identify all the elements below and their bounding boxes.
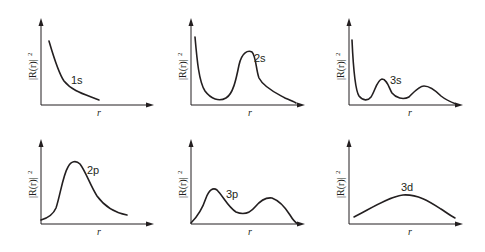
y-axis-arrow-icon — [189, 18, 194, 26]
svg-text:|R(r)|: |R(r)| — [27, 177, 39, 198]
orbital-label: 3s — [390, 74, 402, 86]
y-axis-label: |R(r)| 2 — [334, 170, 347, 198]
curve-2s — [195, 37, 296, 103]
x-axis-label: r — [97, 107, 101, 118]
x-axis-label: r — [408, 107, 412, 118]
x-axis-arrow-icon — [455, 222, 463, 227]
y-axis-arrow-icon — [189, 139, 194, 147]
y-axis-label: |R(r)| 2 — [176, 52, 189, 80]
curve-3s — [352, 40, 456, 104]
svg-text:|R(r)|: |R(r)| — [27, 59, 39, 80]
orbital-label: 3p — [226, 188, 238, 200]
svg-text:2: 2 — [334, 52, 342, 56]
y-axis-arrow-icon — [347, 139, 352, 147]
orbital-label: 2p — [87, 164, 99, 176]
curve-3p — [191, 189, 298, 224]
svg-text:2: 2 — [176, 52, 184, 56]
y-axis-arrow-icon — [39, 139, 44, 147]
panel-3p: 3p r |R(r)| 2 — [176, 139, 305, 237]
x-axis-label: r — [248, 226, 252, 237]
y-axis-label: |R(r)| 2 — [26, 170, 39, 198]
orbital-label: 2s — [254, 52, 266, 64]
orbital-label: 3d — [401, 181, 413, 193]
svg-text:2: 2 — [334, 170, 342, 174]
svg-text:|R(r)|: |R(r)| — [177, 59, 189, 80]
panel-2p: 2p r |R(r)| 2 — [26, 139, 154, 237]
svg-text:2: 2 — [26, 170, 34, 174]
orbital-label: 1s — [71, 74, 83, 86]
svg-text:|R(r)|: |R(r)| — [177, 177, 189, 198]
curve-2p — [41, 162, 127, 220]
y-axis-arrow-icon — [347, 18, 352, 26]
curve-1s — [49, 41, 99, 100]
y-axis-label: |R(r)| 2 — [334, 52, 347, 80]
svg-text:|R(r)|: |R(r)| — [335, 177, 347, 198]
x-axis-arrow-icon — [146, 103, 154, 108]
panel-3s: 3s r |R(r)| 2 — [334, 18, 463, 118]
x-axis-label: r — [408, 226, 412, 237]
y-axis-label: |R(r)| 2 — [26, 52, 39, 80]
x-axis-label: r — [97, 226, 101, 237]
svg-text:2: 2 — [176, 170, 184, 174]
y-axis-label: |R(r)| 2 — [176, 170, 189, 198]
x-axis-arrow-icon — [297, 103, 305, 108]
orbital-diagram: 1s r |R(r)| 2 2s r |R(r)| 2 3s r |R(r)| … — [0, 0, 485, 252]
panel-2s: 2s r |R(r)| 2 — [176, 18, 305, 118]
panel-1s: 1s r |R(r)| 2 — [26, 18, 154, 118]
svg-text:|R(r)|: |R(r)| — [335, 59, 347, 80]
svg-text:2: 2 — [26, 52, 34, 56]
panel-3d: 3d r |R(r)| 2 — [334, 139, 463, 237]
x-axis-arrow-icon — [146, 222, 154, 227]
curve-3d — [354, 195, 455, 218]
y-axis-arrow-icon — [39, 18, 44, 26]
x-axis-label: r — [248, 107, 252, 118]
